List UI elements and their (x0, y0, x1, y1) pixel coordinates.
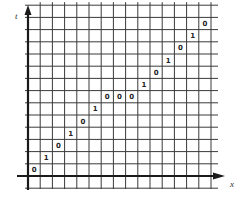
cell-digit: 1 (141, 81, 146, 89)
cell-digit: 0 (178, 44, 183, 52)
t-axis-arrow-icon (25, 5, 32, 15)
cell-digit: 0 (202, 20, 207, 28)
cell-digit: 0 (56, 142, 61, 150)
cell-digit: 1 (190, 32, 195, 40)
cell-digit: 0 (117, 93, 122, 101)
cell-digit: 0 (129, 93, 134, 101)
cell-digit: 1 (44, 154, 49, 162)
x-axis-label: x (229, 179, 234, 189)
t-axis-label: t (15, 11, 18, 21)
cell-digit: 1 (68, 130, 73, 138)
cell-digit: 0 (105, 93, 110, 101)
axes: t x (15, 5, 234, 190)
cell-digit: 1 (93, 105, 98, 113)
cell-digit: 0 (32, 166, 37, 174)
x-axis-arrow-icon (213, 173, 225, 180)
cell-digit: 0 (154, 69, 159, 77)
cell-digit: 1 (166, 57, 171, 65)
cell-digit: 0 (80, 118, 85, 126)
spacetime-diagram: t x 010101000101010 (0, 0, 248, 200)
